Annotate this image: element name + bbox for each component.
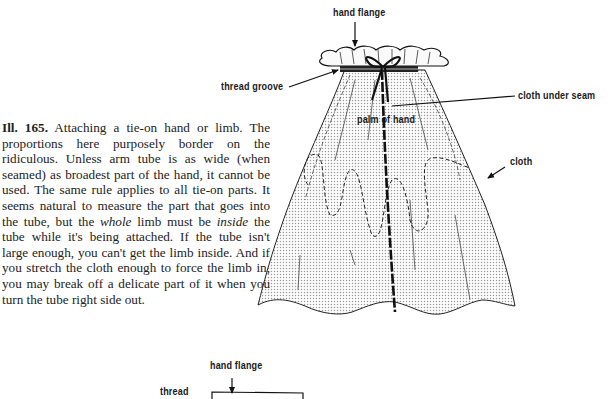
caption-italic-inside: inside — [217, 214, 249, 229]
label-cloth: cloth — [510, 155, 532, 167]
label-palm-of-hand: palm of hand — [357, 113, 415, 125]
label-cloth-under-seam: cloth under seam — [518, 89, 595, 101]
label-bottom-thread: thread — [160, 385, 189, 397]
thread-groove-arrow — [289, 70, 338, 87]
label-hand-flange: hand flange — [333, 6, 385, 18]
caption-text-2: limb must be — [131, 214, 216, 229]
caption-text-1: Attaching a tie-on hand or limb. The pro… — [2, 120, 270, 229]
bottom-flange-outline — [212, 392, 303, 399]
caption-italic-whole: whole — [100, 214, 132, 229]
label-bottom-hand-flange: hand flange — [210, 359, 262, 371]
label-thread-groove: thread groove — [221, 80, 283, 92]
figure-number: Ill. 165. — [2, 120, 48, 135]
hand-flange — [320, 46, 449, 66]
figure-caption: Ill. 165. Attaching a tie-on hand or lim… — [2, 120, 270, 307]
cloth-arrow — [488, 167, 505, 178]
